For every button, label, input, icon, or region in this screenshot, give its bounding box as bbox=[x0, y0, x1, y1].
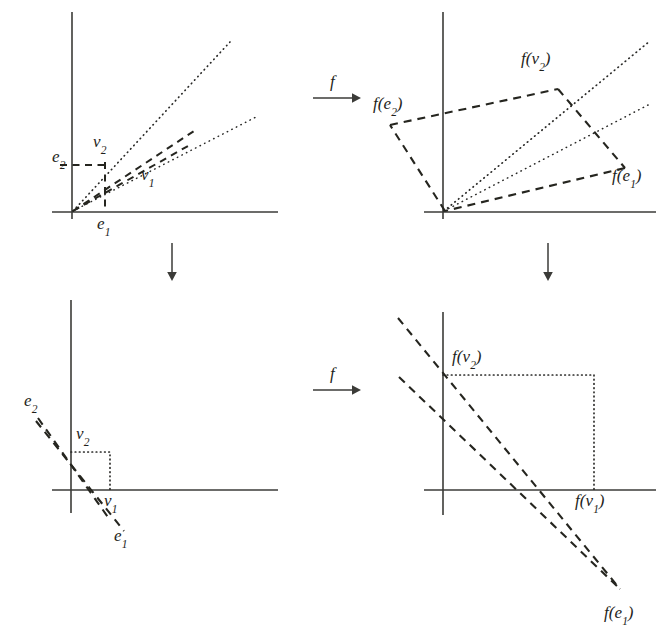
label-v2-bottom-left-base: v bbox=[76, 424, 84, 443]
label-fv1-bottom-right-base: f(v bbox=[575, 491, 593, 510]
label-fv2-top-right: f(v2) bbox=[521, 50, 550, 71]
label-v1-bottom-left: v1 bbox=[104, 492, 117, 513]
label-v2-bottom-left: v2 bbox=[76, 425, 89, 446]
label-fe2-top-right-sub: 2 bbox=[391, 106, 397, 118]
label-fv2-top-right-base: f(v bbox=[521, 49, 539, 68]
label-fe1-bottom-right-tail: ) bbox=[628, 603, 634, 622]
label-v1-bottom-left-sub: 1 bbox=[112, 503, 118, 515]
dashed-edge-fe1-to-origin bbox=[445, 168, 625, 211]
figure-root: f f e2 v2 v1 e1 f(e2) f(v2) f(e1) e2 v2 … bbox=[0, 0, 664, 640]
label-fv2-top-right-tail: ) bbox=[545, 49, 551, 68]
dashed-edge-origin-to-fe2 bbox=[390, 125, 445, 211]
dotted-ray-lower-top-right bbox=[444, 104, 650, 211]
label-v2-top-left: v2 bbox=[93, 133, 106, 154]
label-e1-bottom-left-sub: 1 bbox=[122, 538, 128, 550]
label-e1-top-left-base: e bbox=[97, 214, 105, 233]
label-e1-top-left: e1 bbox=[97, 215, 110, 236]
label-fe2-top-right-tail: ) bbox=[397, 94, 403, 113]
dashed-vector-v1-top-left bbox=[73, 146, 188, 211]
label-v1-bottom-left-base: v bbox=[104, 491, 112, 510]
arrow-f-top-head bbox=[352, 93, 361, 103]
label-fe1-bottom-right: f(e1) bbox=[604, 604, 633, 625]
dashed-edge-fv2-to-fe1 bbox=[558, 89, 625, 168]
label-e2-top-left-sub: 2 bbox=[60, 159, 66, 171]
label-v1-top-left: v1 bbox=[141, 166, 154, 187]
dashed-vector-v2-top-left bbox=[73, 129, 197, 211]
label-fe1-top-right-sub: 1 bbox=[630, 178, 636, 190]
arrow-down-left bbox=[167, 243, 177, 281]
label-v1-top-left-base: v bbox=[141, 165, 149, 184]
dotted-box-bottom-right bbox=[443, 375, 594, 490]
arrow-f-top bbox=[313, 93, 361, 103]
label-e2-top-left-base: e bbox=[52, 147, 60, 166]
label-v2-top-left-sub: 2 bbox=[101, 144, 107, 156]
arrow-down-left-head bbox=[167, 272, 177, 281]
dashed-line-e2-to-e1-inner bbox=[38, 418, 110, 520]
dashed-line-upper-to-fe1 bbox=[398, 318, 620, 589]
label-fe1-bottom-right-base: f(e bbox=[604, 603, 622, 622]
label-fe2-top-right: f(e2) bbox=[373, 95, 402, 116]
label-v2-bottom-left-sub: 2 bbox=[84, 436, 90, 448]
arrow-label-f-top: f bbox=[330, 72, 335, 92]
label-fe1-top-right-base: f(e bbox=[612, 166, 630, 185]
label-fe1-top-right-tail: ) bbox=[636, 166, 642, 185]
label-fv1-bottom-right-tail: ) bbox=[599, 491, 605, 510]
dashed-line-lower-to-fe1 bbox=[399, 377, 620, 589]
panel-top-left bbox=[52, 12, 278, 219]
label-fv2-bottom-right: f(v2) bbox=[452, 348, 481, 369]
panel-bottom-right bbox=[398, 312, 656, 589]
arrow-down-right bbox=[543, 243, 553, 281]
label-v1-top-left-sub: 1 bbox=[149, 177, 155, 189]
label-e2-bottom-left-sub: 2 bbox=[32, 403, 38, 415]
dotted-box-bottom-left bbox=[71, 452, 110, 490]
label-fe2-top-right-base: f(e bbox=[373, 94, 391, 113]
arrow-down-right-head bbox=[543, 272, 553, 281]
panel-bottom-left bbox=[36, 300, 278, 531]
diagram-canvas bbox=[0, 0, 664, 640]
dashed-edge-fe2-to-fv2 bbox=[390, 89, 558, 125]
label-v2-top-left-base: v bbox=[93, 132, 101, 151]
label-fv1-bottom-right-sub: 1 bbox=[593, 503, 599, 515]
label-fe1-bottom-right-sub: 1 bbox=[622, 615, 628, 627]
panel-top-right bbox=[390, 12, 656, 219]
label-e2-bottom-left: e2 bbox=[24, 392, 37, 413]
label-fv2-bottom-right-base: f(v bbox=[452, 347, 470, 366]
label-fv2-bottom-right-tail: ) bbox=[476, 347, 482, 366]
arrow-f-bottom-head bbox=[352, 385, 361, 395]
label-fv2-bottom-right-sub: 2 bbox=[470, 359, 476, 371]
label-fv1-bottom-right: f(v1) bbox=[575, 492, 604, 513]
arrow-label-f-bottom: f bbox=[330, 364, 335, 384]
arrow-f-bottom bbox=[313, 385, 361, 395]
label-e1-bottom-left: e1 bbox=[114, 527, 127, 548]
label-e2-bottom-left-base: e bbox=[24, 391, 32, 410]
label-fe1-top-right: f(e1) bbox=[612, 167, 641, 188]
label-e1-bottom-left-base: e bbox=[114, 526, 122, 545]
label-e2-top-left: e2 bbox=[52, 148, 65, 169]
label-e1-top-left-sub: 1 bbox=[105, 226, 111, 238]
label-fv2-top-right-sub: 2 bbox=[539, 61, 545, 73]
